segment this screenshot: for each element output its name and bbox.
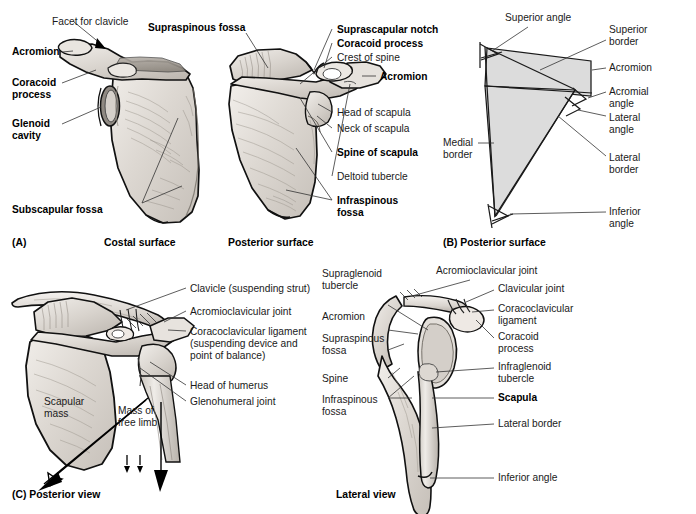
label-infraspinous-fossa: Infraspinous	[337, 195, 398, 207]
caption-lateral-view: Lateral view	[336, 489, 396, 500]
label-spine-lateral: Spine	[322, 373, 348, 385]
label-supraspinous-fossa-lateral-line2: fossa	[322, 345, 346, 357]
scapula-costal-surface-drawing	[58, 40, 199, 224]
label-mass-of-free-limb-line2: free limb	[118, 417, 157, 429]
scapula-schematic-diagram	[480, 42, 592, 228]
label-superior-angle: Superior angle	[505, 12, 571, 24]
label-infraspinous-fossa-lateral: Infraspinous	[322, 394, 378, 406]
label-coracoid-process-lateral: Coracoid	[498, 331, 539, 343]
shoulder-girdle-posterior-drawing	[12, 292, 194, 492]
label-medial-border-line2: border	[443, 149, 472, 161]
label-inferior-angle-lateral: Inferior angle	[498, 472, 557, 484]
label-coracoclavicular-ligament-lateral: Coracoclavicular	[498, 303, 573, 315]
label-coracoid-process-costal-line2: process	[12, 89, 51, 101]
caption-panel-c: (C) Posterior view	[12, 489, 100, 500]
label-clavicular-joint: Clavicular joint	[498, 283, 564, 295]
label-infraglenoid-tubercle-line2: tubercle	[498, 373, 534, 385]
label-coracoclavicular-ligament-lateral-line2: ligament	[498, 315, 537, 327]
label-superior-border-line2: border	[609, 36, 638, 48]
label-glenohumeral-joint: Glenohumeral joint	[190, 396, 276, 408]
label-coracoclavicular-ligament-c-line2: (suspending device and	[190, 338, 298, 350]
label-crest-of-spine: Crest of spine	[337, 52, 400, 64]
label-acromion-schematic: Acromion	[609, 62, 652, 74]
scapula-lateral-view-drawing	[372, 289, 484, 514]
label-lateral-angle: Lateral	[609, 112, 640, 124]
figure-artwork	[0, 0, 696, 514]
label-supraspinous-fossa: Supraspinous fossa	[148, 22, 245, 34]
label-lateral-border-lateral: Lateral border	[498, 418, 561, 430]
caption-posterior-surface: Posterior surface	[228, 237, 313, 248]
label-coracoid-process-posterior: Coracoid process	[337, 38, 423, 50]
label-acromial-angle-line2: angle	[609, 98, 634, 110]
label-coracoid-process-lateral-line2: process	[498, 343, 534, 355]
label-coracoclavicular-ligament-c-line3: point of balance)	[190, 350, 265, 362]
label-supraglenoid-tubercle: Supraglenoid	[322, 268, 382, 280]
label-scapula-lateral: Scapula	[498, 392, 537, 404]
label-clavicle-suspending-strut: Clavicle (suspending strut)	[190, 283, 310, 295]
label-coracoid-process-costal: Coracoid	[12, 77, 56, 89]
caption-costal-surface: Costal surface	[104, 237, 176, 248]
label-coracoclavicular-ligament-c: Coracoclavicular ligament	[190, 326, 307, 338]
label-scapular-mass-line2: mass	[44, 408, 68, 420]
label-acromial-angle: Acromial	[609, 86, 649, 98]
label-deltoid-tubercle: Deltoid tubercle	[337, 171, 408, 183]
label-supraglenoid-tubercle-line2: tubercle	[322, 280, 358, 292]
label-superior-border: Superior	[609, 24, 648, 36]
label-glenoid-cavity-line2: cavity	[12, 130, 41, 142]
label-infraspinous-fossa-lateral-line2: fossa	[322, 406, 346, 418]
label-medial-border: Medial	[443, 137, 473, 149]
caption-panel-a: (A)	[12, 237, 26, 248]
label-infraspinous-fossa-line2: fossa	[337, 207, 364, 219]
label-mass-of-free-limb: Mass of	[118, 405, 154, 417]
label-spine-of-scapula: Spine of scapula	[337, 147, 418, 159]
caption-panel-b: (B) Posterior surface	[443, 237, 546, 248]
label-glenoid-cavity: Glenoid	[12, 118, 50, 130]
label-inferior-angle-schematic-line2: angle	[609, 218, 634, 230]
label-facet-for-clavicle: Facet for clavicle	[52, 16, 128, 28]
label-subscapular-fossa: Subscapular fossa	[12, 204, 103, 216]
label-lateral-angle-line2: angle	[609, 124, 634, 136]
label-acromioclavicular-joint-c: Acromioclavicular joint	[190, 306, 291, 318]
label-lateral-border-schematic: Lateral	[609, 152, 640, 164]
label-lateral-border-schematic-line2: border	[609, 164, 638, 176]
label-acromion-lateral: Acromion	[322, 311, 365, 323]
label-supraspinous-fossa-lateral: Supraspinous	[322, 333, 384, 345]
label-neck-of-scapula: Neck of scapula	[337, 123, 409, 135]
label-inferior-angle-schematic: Inferior	[609, 206, 641, 218]
label-head-of-scapula: Head of scapula	[337, 107, 411, 119]
label-acromion-costal: Acromion	[12, 46, 60, 58]
label-acromion-posterior: Acromion	[380, 71, 428, 83]
anatomy-figure-scapula: Facet for clavicle Acromion Coracoid pro…	[0, 0, 696, 514]
label-acromioclavicular-joint-lateral: Acromioclavicular joint	[436, 265, 537, 277]
label-head-of-humerus: Head of humerus	[190, 380, 268, 392]
label-scapular-mass: Scapular	[44, 396, 84, 408]
label-suprascapular-notch: Suprascapular notch	[337, 24, 438, 36]
label-infraglenoid-tubercle: Infraglenoid	[498, 361, 551, 373]
